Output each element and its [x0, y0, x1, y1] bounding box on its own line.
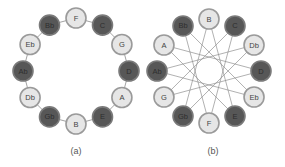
star-edges: [157, 19, 261, 123]
caption-b: (b): [208, 146, 219, 156]
note-node-c: C: [93, 15, 113, 35]
node-label: Ab: [152, 67, 161, 76]
node-label: Db: [25, 93, 35, 102]
node-label: B: [73, 120, 78, 129]
note-nodes: BCDbDEbEFGbGAbABb: [147, 9, 271, 133]
note-node-c: C: [225, 16, 245, 36]
node-label: D: [258, 67, 264, 76]
note-node-bb: Bb: [173, 16, 193, 36]
node-label: Eb: [26, 40, 35, 49]
note-node-d: D: [119, 61, 139, 81]
chromatic-star-diagram: BCDbDEbEFGbGAbABb (b): [147, 9, 271, 156]
note-nodes: FCGDAEBGbDbAbEbBb: [13, 8, 139, 134]
note-node-gb: Gb: [40, 107, 60, 127]
note-node-f: F: [66, 8, 86, 28]
note-node-e: E: [225, 106, 245, 126]
node-label: G: [119, 40, 125, 49]
note-node-db: Db: [244, 35, 264, 55]
note-node-g: G: [112, 35, 132, 55]
note-node-d: D: [251, 61, 271, 81]
node-label: A: [161, 41, 166, 50]
node-label: Ab: [18, 67, 27, 76]
node-label: E: [232, 112, 237, 121]
note-node-a: A: [154, 35, 174, 55]
note-node-ab: Ab: [13, 61, 33, 81]
node-label: A: [119, 93, 124, 102]
note-node-f: F: [199, 113, 219, 133]
note-node-e: E: [93, 107, 113, 127]
node-label: Eb: [249, 93, 258, 102]
node-label: Bb: [45, 21, 54, 30]
note-node-ab: Ab: [147, 61, 167, 81]
node-label: E: [100, 112, 105, 121]
note-node-b: B: [199, 9, 219, 29]
node-label: Bb: [178, 21, 187, 30]
node-label: C: [232, 21, 238, 30]
note-node-gb: Gb: [173, 106, 193, 126]
note-node-eb: Eb: [244, 87, 264, 107]
node-label: B: [206, 15, 211, 24]
node-label: F: [207, 119, 212, 128]
node-label: F: [74, 14, 79, 23]
circle-of-fifths-diagram: FCGDAEBGbDbAbEbBb (a): [13, 8, 139, 156]
note-node-eb: Eb: [20, 35, 40, 55]
note-node-bb: Bb: [40, 15, 60, 35]
node-label: G: [161, 93, 167, 102]
ring-edges: [23, 18, 129, 124]
note-node-g: G: [154, 87, 174, 107]
note-node-a: A: [112, 88, 132, 108]
caption-a: (a): [71, 146, 82, 156]
node-label: Gb: [178, 112, 188, 121]
note-node-b: B: [66, 114, 86, 134]
node-label: C: [100, 21, 106, 30]
node-label: D: [126, 67, 132, 76]
diagram-canvas: FCGDAEBGbDbAbEbBb (a) BCDbDEbEFGbGAbABb …: [0, 0, 285, 167]
node-label: Gb: [44, 112, 54, 121]
node-label: Db: [249, 41, 259, 50]
note-node-db: Db: [20, 88, 40, 108]
